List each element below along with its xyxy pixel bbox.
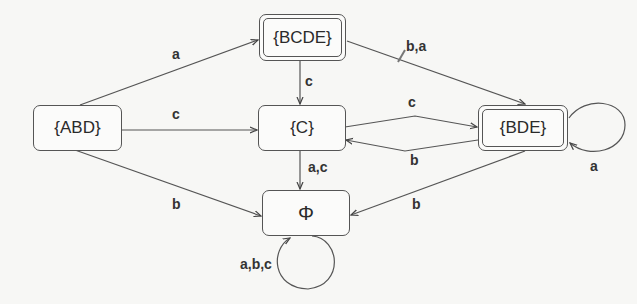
state-c: {C} <box>258 105 346 151</box>
state-label: {C} <box>290 118 314 138</box>
edge-label-c-bde: c <box>408 94 416 110</box>
edge-label-abd-phi: b <box>172 196 181 212</box>
edge-label-bcde-c: c <box>305 73 313 89</box>
edge-c-bde <box>345 116 477 127</box>
state-phi: Φ <box>262 190 350 236</box>
edge-label-bde-c: b <box>410 152 419 168</box>
edge-label-c-phi: a,c <box>308 159 327 175</box>
state-bde: {BDE} <box>478 105 568 151</box>
edge-label-bde-phi: b <box>412 196 421 212</box>
edge-label-bcde-bde: b,a <box>406 38 426 54</box>
edge-bde-c <box>346 140 478 151</box>
edge-label-abd-c: c <box>172 106 180 122</box>
state-abd: {ABD} <box>33 105 122 151</box>
state-label: {BCDE} <box>273 28 332 48</box>
state-label: {BDE} <box>500 118 546 138</box>
edge-label-phi-loop: a,b,c <box>240 256 272 272</box>
edge-abd-bcde <box>80 40 258 105</box>
edge-bde-phi <box>351 151 525 215</box>
state-bcde: {BCDE} <box>259 14 346 61</box>
state-label: Φ <box>298 202 314 225</box>
edge-bde-loop <box>569 103 625 151</box>
edge-abd-phi <box>75 150 261 216</box>
edge-phi-loop <box>277 236 334 289</box>
state-label: {ABD} <box>54 118 100 138</box>
edge-bcde-bde <box>347 41 525 104</box>
edge-label-bde-loop: a <box>590 158 598 174</box>
edge-label-abd-bcde: a <box>172 46 180 62</box>
